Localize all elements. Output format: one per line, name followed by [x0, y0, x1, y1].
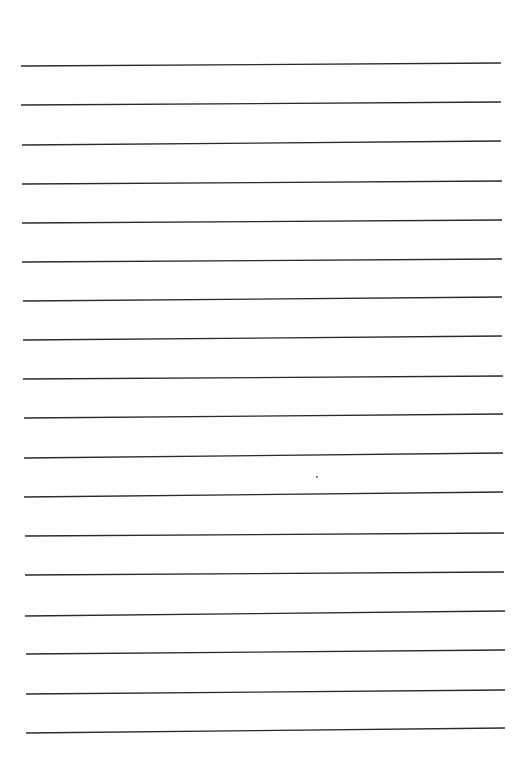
- ruled-line: [24, 453, 503, 458]
- ruled-line: [24, 492, 503, 497]
- rules-group: [21, 63, 505, 733]
- ruled-line: [22, 220, 502, 223]
- ruled-line: [21, 63, 501, 66]
- ruled-line: [23, 376, 503, 379]
- ruled-line: [26, 690, 505, 694]
- ruled-line: [26, 650, 505, 654]
- ruled-line: [21, 102, 501, 105]
- ruled-line: [23, 336, 502, 340]
- ruled-line: [22, 141, 501, 145]
- lined-paper-page: [0, 0, 523, 770]
- ruled-line: [23, 297, 502, 301]
- stray-marks: [316, 476, 318, 478]
- ruled-line: [22, 259, 502, 262]
- ruled-line: [25, 572, 504, 575]
- ink-speck: [316, 476, 318, 478]
- ruled-line: [26, 728, 505, 733]
- ruled-line: [25, 533, 504, 536]
- ruled-line: [22, 181, 502, 184]
- ruled-lines: [0, 0, 523, 770]
- ruled-line: [24, 414, 503, 418]
- ruled-line: [25, 611, 505, 616]
